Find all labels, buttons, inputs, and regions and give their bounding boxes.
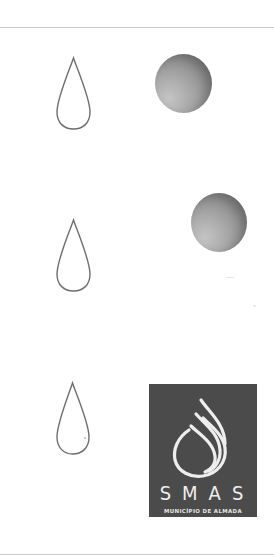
logo-subtitle: MUNICÍPIO DE ALMADA [149, 508, 257, 515]
teardrop-outline-icon [54, 218, 94, 294]
teardrop-outline-icon [54, 381, 94, 457]
teardrop-outline-icon [54, 56, 94, 132]
water-drop-flame-icon [169, 394, 237, 480]
bottom-rule [0, 554, 274, 555]
gradient-circle-icon [191, 193, 247, 252]
smas-logo: SMAS MUNICÍPIO DE ALMADA [149, 384, 257, 517]
top-rule [0, 27, 274, 28]
scan-artifact [226, 277, 234, 278]
gradient-circle-icon [155, 54, 212, 113]
logo-title: SMAS [149, 482, 257, 504]
scan-artifact [253, 305, 256, 307]
